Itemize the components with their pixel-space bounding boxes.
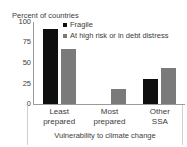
- category-label-other-ssa: Other SSA: [135, 107, 185, 126]
- bar-fragile-other-ssa: [143, 79, 158, 104]
- y-tick-100: 100: [5, 18, 31, 26]
- category-line-2: prepared: [34, 117, 84, 127]
- clipped-title-remnant: [46, 0, 141, 3]
- category-line-1: Least: [34, 107, 84, 117]
- legend-swatch-at-risk-icon: [63, 34, 67, 38]
- bar-atrisk-other-ssa: [161, 68, 176, 104]
- y-tick-25: 25: [5, 80, 31, 88]
- chart-legend: Fragile At high risk or in debt distress: [63, 20, 168, 42]
- legend-label-at-risk: At high risk or in debt distress: [70, 31, 168, 40]
- category-line-1: Other: [135, 107, 185, 117]
- bar-fragile-least-prepared: [43, 29, 58, 104]
- y-tick-50: 50: [5, 59, 31, 67]
- legend-label-fragile: Fragile: [70, 20, 93, 29]
- y-tick-75: 75: [5, 38, 31, 46]
- category-label-most-prepared: Most prepared: [84, 107, 134, 126]
- x-axis-category-labels: Least prepared Most prepared Other SSA: [34, 107, 185, 126]
- category-line-2: prepared: [84, 117, 134, 127]
- bar-atrisk-most-prepared: [111, 89, 126, 104]
- category-line-2: SSA: [135, 117, 185, 127]
- category-label-least-prepared: Least prepared: [34, 107, 84, 126]
- category-line-1: Most: [84, 107, 134, 117]
- legend-item-at-risk: At high risk or in debt distress: [63, 31, 168, 40]
- x-axis-title: Vulnerability to climate change: [27, 131, 183, 140]
- bar-atrisk-least-prepared: [61, 49, 76, 104]
- legend-swatch-fragile-icon: [63, 23, 67, 27]
- bar-chart: Percent of countries 100 75 50 25 0 Leas…: [0, 0, 187, 147]
- legend-item-fragile: Fragile: [63, 20, 168, 29]
